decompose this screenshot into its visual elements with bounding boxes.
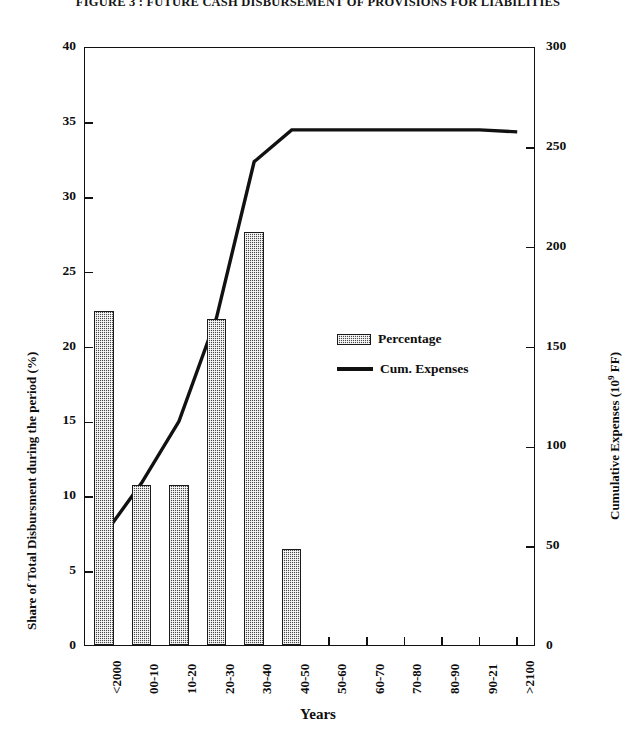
bar-00-10 (132, 485, 152, 645)
x-axis-tick (366, 637, 368, 645)
x-axis-tick-label: 60-70 (372, 664, 388, 694)
left-axis-tick (85, 496, 93, 498)
legend-item-cum-expenses: Cum. Expenses (337, 361, 469, 377)
x-axis-tick (441, 637, 443, 645)
x-axis-tick-label: 70-80 (409, 664, 425, 694)
left-axis-tick-label: 35 (36, 113, 76, 129)
bar-40-50 (282, 549, 302, 645)
x-axis-tick-label: 20-30 (222, 664, 238, 694)
right-axis-tick (526, 147, 534, 149)
x-axis-tick (516, 637, 518, 645)
right-axis-tick (526, 546, 534, 548)
bar-20-30 (207, 319, 227, 645)
plot-area (84, 47, 535, 646)
x-axis-tick-label: <2000 (109, 661, 125, 694)
bar-30-40 (244, 232, 264, 645)
x-axis-title: Years (0, 706, 636, 723)
left-axis-tick-label: 5 (36, 562, 76, 578)
right-axis-title-text: Cumulative Expenses (109 FF) (607, 352, 622, 520)
figure-title: FIGURE 3 : FUTURE CASH DISBURSEMENT OF P… (0, 0, 636, 9)
right-axis-tick (526, 347, 534, 349)
left-axis-tick (85, 347, 93, 349)
left-axis-tick-label: 40 (36, 38, 76, 54)
right-axis-tick-label: 50 (546, 537, 592, 553)
right-axis-tick-label: 250 (546, 138, 592, 154)
right-axis-tick-label: 0 (546, 637, 592, 653)
right-axis-title: Cumulative Expenses (109 FF) (606, 352, 623, 520)
left-axis-tick-label: 30 (36, 188, 76, 204)
x-axis-tick (328, 637, 330, 645)
legend-line-swatch (337, 367, 373, 371)
x-axis-tick-label: 80-90 (447, 664, 463, 694)
left-axis-tick-label: 15 (36, 412, 76, 428)
legend-label: Percentage (378, 331, 441, 347)
left-axis-tick-label: 20 (36, 338, 76, 354)
x-axis-tick-label: 00-10 (146, 664, 162, 694)
x-axis-tick-label: 30-40 (259, 664, 275, 694)
right-axis-tick (526, 247, 534, 249)
right-axis-exponent: 9 (606, 375, 616, 380)
x-axis-tick-label: 50-60 (334, 664, 350, 694)
legend-label: Cum. Expenses (380, 361, 469, 377)
left-axis-tick-label: 0 (36, 637, 76, 653)
x-axis-tick-label: 40-50 (297, 664, 313, 694)
left-axis-tick (85, 197, 93, 199)
legend-bar-swatch (337, 334, 371, 345)
left-axis-tick (85, 122, 93, 124)
left-axis-tick-label: 10 (36, 487, 76, 503)
x-axis-tick (404, 637, 406, 645)
cumulative-expenses-line (85, 48, 536, 647)
right-axis-tick (526, 447, 534, 449)
left-axis-tick (85, 422, 93, 424)
bar-10-20 (169, 485, 189, 645)
left-axis-tick (85, 571, 93, 573)
cumulative-expenses-polyline (104, 130, 517, 535)
legend-item-percentage: Percentage (337, 331, 441, 347)
x-axis-tick-label: >2100 (522, 661, 538, 694)
x-axis-tick-label: 10-20 (184, 664, 200, 694)
figure-canvas: FIGURE 3 : FUTURE CASH DISBURSEMENT OF P… (0, 0, 636, 744)
bar-<2000 (94, 311, 114, 645)
right-axis-tick-label: 100 (546, 437, 592, 453)
x-axis-tick-label: 90-21 (485, 664, 501, 694)
right-axis-tick-label: 300 (546, 38, 592, 54)
right-axis-tick-label: 150 (546, 338, 592, 354)
right-axis-tick-label: 200 (546, 238, 592, 254)
x-axis-tick (479, 637, 481, 645)
left-axis-tick-label: 25 (36, 263, 76, 279)
left-axis-tick (85, 272, 93, 274)
